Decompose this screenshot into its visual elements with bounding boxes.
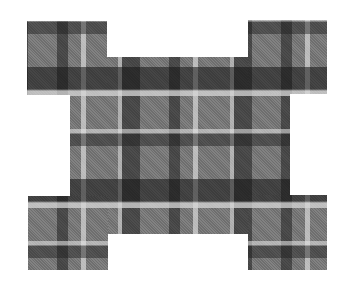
top-left-tab — [27, 21, 107, 95]
top-right-tab — [248, 20, 327, 94]
plaid-fabric-shape — [0, 0, 352, 291]
bottom-left-tab — [28, 196, 108, 270]
bottom-right-tab — [248, 195, 327, 270]
